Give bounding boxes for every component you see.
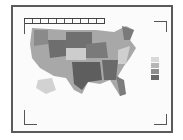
corner-bracket-bottom-left bbox=[24, 110, 37, 125]
legend-swatch bbox=[151, 57, 159, 62]
legend-swatch bbox=[151, 75, 159, 80]
us-map bbox=[26, 24, 146, 104]
corner-bracket-bottom-right bbox=[154, 114, 167, 125]
legend bbox=[151, 57, 159, 81]
legend-swatch bbox=[151, 63, 159, 68]
legend-swatch bbox=[151, 69, 159, 74]
corner-bracket-top-right bbox=[154, 21, 167, 32]
bracket-line bbox=[24, 22, 25, 34]
